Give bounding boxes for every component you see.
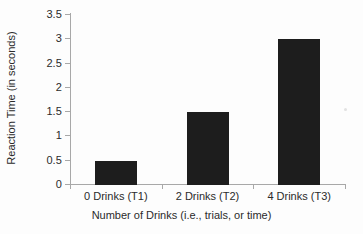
bar-chart-figure: Reaction Time (in seconds) 00.511.522.53… [0,0,363,234]
bars-layer [0,0,363,185]
bar [187,112,229,185]
scan-artifact-speck [344,108,347,111]
x-axis-title: Number of Drinks (i.e., trials, or time) [0,209,363,221]
bar [95,161,137,185]
x-axis-category-label: 4 Drinks (T3) [239,190,359,203]
bar [278,39,320,185]
